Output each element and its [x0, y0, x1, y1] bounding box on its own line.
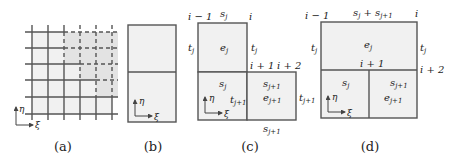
node-label: i: [415, 8, 418, 19]
node-label: i + 1: [250, 60, 274, 71]
edge-label: sj + sj+1: [353, 7, 393, 20]
node-label: i + 2: [420, 64, 444, 75]
node-label: i − 1: [188, 11, 212, 22]
eta-label: η: [332, 92, 338, 102]
edge-label: tj: [311, 42, 318, 55]
panel-d: i − 1 i i + 1 i + 2 sj + sj+1 tj tj ej s…: [305, 7, 444, 154]
caption-d: (d): [361, 139, 379, 154]
mesh-refinement-diagram: η ξ (a) η ξ (b) i − 1 i i + 1 i + 2 sj t…: [0, 0, 452, 162]
panel-c: i − 1 i i + 1 i + 2 sj tj tj ej sj tj+1 …: [188, 8, 316, 154]
xi-label: ξ: [35, 120, 41, 130]
edge-label: sj+1: [263, 123, 281, 136]
eta-label: η: [209, 93, 215, 103]
edge-label: tj+1: [299, 92, 316, 105]
node-label: i − 1: [305, 10, 329, 21]
panel-b: η ξ (b): [128, 25, 176, 154]
lower-right-element: [247, 72, 296, 120]
node-label: i + 2: [277, 60, 301, 71]
edge-label: tj: [420, 42, 427, 55]
edge-label: tj: [188, 42, 195, 55]
node-label: i + 1: [360, 58, 384, 69]
edge-label: sj: [220, 8, 228, 21]
caption-a: (a): [54, 139, 72, 154]
caption-b: (b): [144, 139, 162, 154]
eta-label: η: [139, 96, 145, 106]
panel-a: η ξ (a): [16, 25, 118, 154]
edge-label: tj: [251, 42, 258, 55]
node-label: i: [249, 11, 252, 22]
eta-label: η: [19, 104, 25, 114]
caption-c: (c): [241, 139, 258, 154]
